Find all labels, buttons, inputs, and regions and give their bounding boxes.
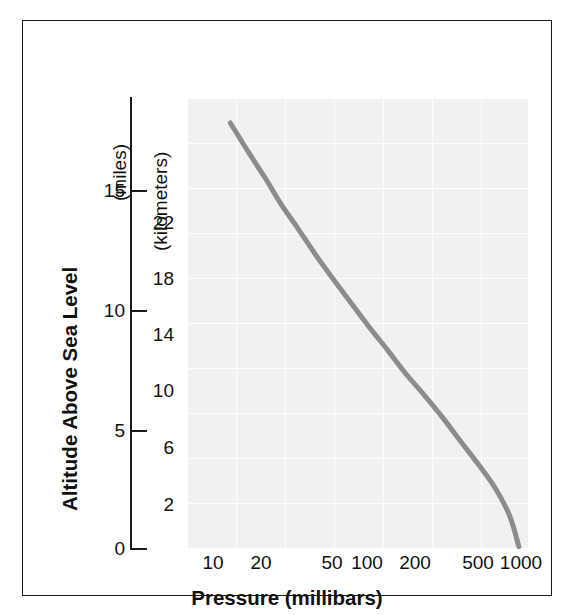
- km-label-10: 10: [141, 381, 174, 400]
- km-label-14-wrap: 14: [141, 325, 174, 345]
- km-label-2: 2: [141, 495, 174, 514]
- miles-tick-10: [132, 310, 147, 312]
- miles-label-0: 0: [91, 539, 125, 558]
- km-label-18-wrap: 18: [141, 269, 174, 289]
- figure-frame: 15 10 5 0 22 18 14 10 6 2 (miles): [22, 20, 552, 596]
- pressure-altitude-curve: [230, 123, 518, 547]
- miles-label-5: 5: [91, 421, 125, 440]
- miles-tick-15: [132, 190, 147, 192]
- x-label-1000: 1000: [500, 553, 542, 572]
- miles-tick-0: [132, 548, 147, 550]
- x-label-50: 50: [321, 553, 342, 572]
- km-label-18: 18: [141, 269, 174, 288]
- x-label-100: 100: [351, 553, 383, 572]
- miles-label-5-wrap: 5: [81, 421, 125, 441]
- miles-label-10: 10: [91, 301, 125, 320]
- x-label-20: 20: [250, 553, 271, 572]
- km-label-6-wrap: 6: [141, 438, 174, 458]
- kilometers-unit-caption: (kilometers): [150, 152, 172, 251]
- x-label-10: 10: [202, 553, 223, 572]
- km-label-2-wrap: 2: [141, 495, 174, 515]
- miles-unit-caption: (miles): [109, 144, 131, 201]
- x-axis-title: Pressure (millibars): [23, 586, 551, 610]
- km-label-14: 14: [141, 325, 174, 344]
- km-label-6: 6: [141, 438, 174, 457]
- miles-tick-5: [132, 430, 147, 432]
- x-label-500: 500: [462, 553, 494, 572]
- x-label-200: 200: [399, 553, 431, 572]
- miles-label-0-wrap: 0: [81, 539, 125, 559]
- chart-curve-layer: [188, 99, 528, 549]
- km-label-10-wrap: 10: [141, 381, 174, 401]
- figure-container: 15 10 5 0 22 18 14 10 6 2 (miles): [0, 0, 573, 616]
- miles-label-10-wrap: 10: [81, 301, 125, 321]
- y-axis-title: Altitude Above Sea Level: [58, 267, 82, 511]
